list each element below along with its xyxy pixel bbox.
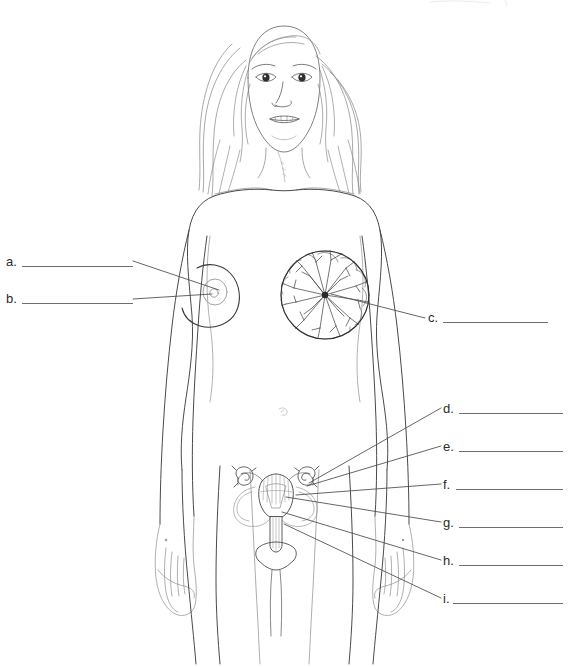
label-marker-c: c. bbox=[428, 311, 438, 324]
answer-line-i[interactable] bbox=[453, 603, 563, 604]
answer-line-a[interactable] bbox=[22, 266, 133, 267]
answer-line-b[interactable] bbox=[22, 303, 133, 304]
answer-line-g[interactable] bbox=[459, 527, 563, 528]
navel bbox=[279, 408, 287, 415]
neck-and-clavicle bbox=[215, 148, 354, 194]
hair-shoulders bbox=[208, 140, 360, 194]
label-marker-g: g. bbox=[443, 516, 454, 529]
answer-line-d[interactable] bbox=[459, 413, 563, 414]
answer-line-e[interactable] bbox=[459, 451, 563, 452]
areola bbox=[203, 279, 227, 305]
hair-front bbox=[234, 36, 335, 162]
uterus-overlay bbox=[232, 466, 319, 636]
ovary-left bbox=[232, 466, 256, 487]
anatomy-figure bbox=[0, 0, 569, 667]
leader-line-e bbox=[307, 446, 441, 486]
vagina bbox=[256, 542, 297, 636]
face-features bbox=[252, 64, 316, 139]
right-arm bbox=[362, 230, 409, 524]
label-marker-a: a. bbox=[6, 255, 17, 268]
label-marker-i: i. bbox=[443, 592, 450, 605]
leader-line-d bbox=[309, 408, 441, 483]
cutaway-breast bbox=[278, 248, 372, 344]
label-marker-h: h. bbox=[443, 554, 454, 567]
torso-outline bbox=[181, 189, 388, 470]
worksheet-page: a. b. c. d. e. f. g. h. i. bbox=[0, 0, 569, 667]
answer-line-f[interactable] bbox=[456, 489, 563, 490]
leader-line-h bbox=[282, 512, 441, 560]
answer-line-c[interactable] bbox=[443, 322, 548, 323]
nipple bbox=[210, 289, 218, 297]
label-marker-f: f. bbox=[443, 478, 450, 491]
leader-line-c bbox=[331, 294, 425, 318]
left-arm bbox=[160, 230, 207, 524]
head-outline bbox=[248, 26, 320, 152]
label-marker-e: e. bbox=[443, 440, 454, 453]
leader-line-i bbox=[284, 524, 441, 598]
label-marker-b: b. bbox=[6, 292, 17, 305]
top-edge-artifact bbox=[430, 0, 507, 6]
answer-line-h[interactable] bbox=[459, 565, 563, 566]
label-marker-d: d. bbox=[443, 402, 454, 415]
